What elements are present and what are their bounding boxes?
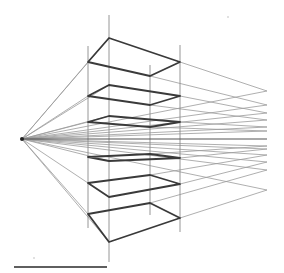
convergence-line	[22, 127, 267, 139]
perspective-planes	[88, 38, 180, 242]
convergence-lines	[22, 38, 267, 242]
convergence-line	[180, 122, 267, 127]
convergence-line	[180, 190, 267, 218]
perspective-drawing	[0, 0, 284, 273]
convergence-line	[22, 62, 88, 139]
perspective-plane	[88, 85, 180, 105]
perspective-plane	[88, 116, 180, 127]
perspective-plane	[88, 175, 180, 197]
convergence-line	[22, 105, 267, 139]
perspective-plane	[88, 203, 180, 242]
perspective-diagram	[0, 0, 284, 273]
speck	[33, 257, 35, 259]
vanishing-point	[20, 137, 24, 141]
convergence-line	[150, 146, 267, 154]
speck	[227, 16, 229, 18]
perspective-plane	[88, 38, 180, 76]
